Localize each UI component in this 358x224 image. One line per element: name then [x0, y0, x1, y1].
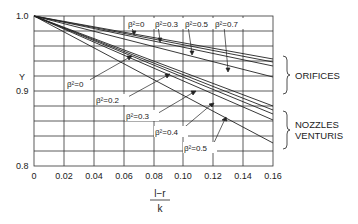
label-nozzle-b02: β²=0.2 — [96, 96, 120, 105]
y-axis-title: Y — [19, 72, 25, 82]
x-tick: 0.08 — [145, 171, 163, 181]
x-axis-denominator: k — [158, 203, 164, 214]
label-orifice-b0: β²=0 — [128, 20, 145, 29]
x-axis-numerator: l−r — [154, 188, 166, 199]
grid — [34, 16, 273, 166]
label-nozzle-b05: β²=0.5 — [184, 144, 208, 153]
x-tick: 0.06 — [115, 171, 133, 181]
nozzles-label: NOZZLES — [295, 119, 339, 130]
group-braces — [283, 56, 290, 149]
x-tick: 0.14 — [234, 171, 252, 181]
label-nozzle-b0: β²=0 — [67, 80, 84, 89]
nozzles-brace-icon — [283, 111, 290, 149]
orifices-label: ORIFICES — [295, 70, 340, 81]
label-nozzle-b03: β²=0.3 — [126, 112, 150, 121]
y-tick-1.0: 1.0 — [16, 11, 29, 21]
label-orifice-b03: β²=0.3 — [155, 20, 179, 29]
x-tick: 0.10 — [174, 171, 192, 181]
x-tick: 0.02 — [55, 171, 73, 181]
label-orifice-b07: β²=0.7 — [215, 20, 239, 29]
x-tick: 0 — [31, 171, 36, 181]
y-axis-labels: 1.0 0.9 0.8 Y — [16, 11, 29, 171]
x-tick: 0.16 — [264, 171, 282, 181]
label-orifice-b05: β²=0.5 — [185, 20, 209, 29]
y-tick-0.8: 0.8 — [16, 161, 29, 171]
x-axis-labels: 0 0.02 0.04 0.06 0.08 0.10 0.12 0.14 0.1… — [31, 171, 281, 214]
y-tick-0.9: 0.9 — [16, 86, 29, 96]
venturis-label: VENTURIS — [295, 130, 343, 141]
label-nozzle-b04: β²=0.4 — [155, 128, 179, 137]
x-tick: 0.12 — [204, 171, 222, 181]
orifices-brace-icon — [283, 56, 290, 94]
x-tick: 0.04 — [85, 171, 103, 181]
chart: β²=0 β²=0.3 β²=0.5 β²=0.7 β²=0 β²=0.2 β²… — [0, 0, 358, 224]
